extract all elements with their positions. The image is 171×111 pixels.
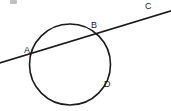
point-label-c: C xyxy=(145,2,152,11)
figure-drawing xyxy=(0,0,171,111)
point-label-d: D xyxy=(104,80,111,89)
circle-shape xyxy=(30,24,111,105)
secant-line xyxy=(0,11,171,64)
point-label-a: A xyxy=(24,46,30,55)
point-label-b: B xyxy=(91,21,97,30)
geometry-figure: A B C D xyxy=(0,0,171,111)
scan-artifact xyxy=(10,0,17,4)
